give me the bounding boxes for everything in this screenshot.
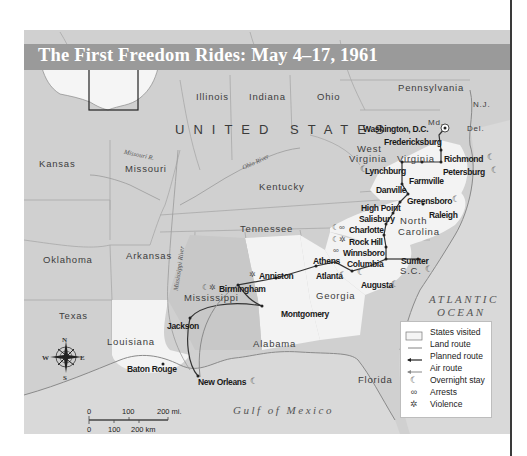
compass-west: W xyxy=(42,354,49,362)
state-label-alabama: Alabama xyxy=(253,338,296,349)
legend-item-arrests: ∞ Arrests xyxy=(401,387,491,399)
states-visited-swatch-icon xyxy=(405,327,423,339)
state-label-north: North xyxy=(400,215,427,226)
state-label-sc: S.C. xyxy=(400,265,422,276)
city-athens: Athens xyxy=(313,256,340,266)
city-salisbury: Salisbury xyxy=(359,214,395,224)
scale-km-100: 100 xyxy=(108,425,121,434)
moon-icon: ☾ xyxy=(332,235,339,244)
moon-icon: ☾ xyxy=(491,165,499,175)
city-richmond: Richmond xyxy=(444,154,483,164)
legend-item-violence: ✲ Violence xyxy=(401,399,491,411)
scale-mi-100: 100 xyxy=(122,407,135,416)
state-label-arkansas: Arkansas xyxy=(126,250,172,261)
moon-icon: ☾ xyxy=(487,152,495,162)
city-lynchburg: Lynchburg xyxy=(365,166,406,176)
city-new-orleans: New Orleans xyxy=(198,377,246,387)
scale-mi-200: 200 mi. xyxy=(157,407,182,416)
state-label-tennessee: Tennessee xyxy=(240,223,293,234)
scale-mi-0: 0 xyxy=(87,407,91,416)
freedom-rides-map: The First Freedom Rides: May 4–17, 1961 … xyxy=(24,30,510,434)
water-label-ocean: OCEAN xyxy=(437,306,486,318)
state-label-md: Md. xyxy=(428,118,444,127)
moon-icon: ☾ xyxy=(425,264,433,274)
city-washington-dc: Washington, D.C. xyxy=(363,124,428,134)
planned-route-arrow-icon xyxy=(405,351,423,363)
state-label-louisiana: Louisiana xyxy=(107,336,155,347)
city-farmville: Farmville xyxy=(409,176,444,186)
state-label-pennsylvania: Pennsylvania xyxy=(398,82,464,93)
city-rock-hill: Rock Hill xyxy=(349,237,383,247)
moon-icon: ☾ xyxy=(250,376,258,386)
moon-icon: ☾ xyxy=(357,267,365,277)
moon-icon: ☾ xyxy=(202,283,209,292)
state-label-carolina: Carolina xyxy=(398,226,440,237)
state-label-nj: N.J. xyxy=(473,100,490,109)
burst-icon: ✲ xyxy=(249,270,256,279)
city-fredericksburg: Fredericksburg xyxy=(384,137,442,147)
water-label-gulf: Gulf of Mexico xyxy=(233,404,334,416)
handcuffs-icon: ∞ xyxy=(333,246,339,255)
map-legend: States visited Land route Planned route … xyxy=(400,321,492,418)
state-label-ohio: Ohio xyxy=(317,91,340,102)
water-label-atlantic: ATLANTIC xyxy=(429,293,499,305)
city-montgomery: Montgomery xyxy=(281,309,329,319)
country-label: UNITED STATES xyxy=(175,122,393,137)
air-route-arrow-icon xyxy=(405,363,423,375)
state-label-texas: Texas xyxy=(59,310,88,321)
legend-item-overnight-stay: ☾ Overnight stay xyxy=(401,375,491,387)
moon-icon: ☾ xyxy=(332,223,339,232)
legend-item-states-visited: States visited xyxy=(401,327,491,339)
state-label-florida: Florida xyxy=(358,374,393,385)
state-label-indiana: Indiana xyxy=(249,91,286,102)
city-jackson: Jackson xyxy=(167,321,199,331)
city-birmingham: Birmingham xyxy=(219,284,266,294)
state-label-west-virginia: Virginia xyxy=(349,153,387,164)
city-charlotte: Charlotte xyxy=(349,225,384,235)
city-anniston: Anniston xyxy=(259,271,293,281)
city-raleigh: Raleigh xyxy=(429,210,458,220)
map-title: The First Freedom Rides: May 4–17, 1961 xyxy=(38,45,378,66)
title-bar: The First Freedom Rides: May 4–17, 1961 xyxy=(24,44,510,70)
city-danville: Danville xyxy=(376,185,406,195)
city-greensboro: Greensboro xyxy=(407,196,452,206)
city-high-point: High Point xyxy=(361,203,401,213)
burst-icon: ✲ xyxy=(405,399,423,411)
state-label-virginia: Virginia xyxy=(397,153,435,164)
city-augusta: Augusta xyxy=(361,280,393,290)
scale-km-0: 0 xyxy=(87,425,91,434)
moon-icon: ☾ xyxy=(339,270,347,280)
legend-item-land-route: Land route xyxy=(401,339,491,351)
legend-item-planned-route: Planned route xyxy=(401,351,491,363)
state-label-oklahoma: Oklahoma xyxy=(43,254,93,265)
legend-item-air-route: Air route xyxy=(401,363,491,375)
state-label-missouri: Missouri xyxy=(125,163,167,174)
handcuffs-icon: ∞ xyxy=(405,387,423,399)
state-label-georgia: Georgia xyxy=(316,290,355,301)
moon-icon: ☾ xyxy=(391,279,399,289)
city-baton-rouge: Baton Rouge xyxy=(127,364,177,374)
burst-icon: ✲ xyxy=(209,283,216,292)
page-edge-line xyxy=(510,0,512,456)
city-petersburg: Petersburg xyxy=(443,167,485,177)
moon-icon: ☾ xyxy=(360,164,368,174)
city-columbia: Columbia xyxy=(347,259,383,269)
state-label-del: Del. xyxy=(467,124,484,133)
compass-east: E xyxy=(80,354,85,362)
moon-icon: ☾ xyxy=(405,375,423,387)
compass-south: S xyxy=(63,374,67,382)
state-label-illinois: Illinois xyxy=(196,91,229,102)
handcuffs-icon: ∞ xyxy=(339,223,345,232)
city-winnsboro: Winnsboro xyxy=(343,248,385,258)
state-label-kentucky: Kentucky xyxy=(259,181,304,192)
state-label-kansas: Kansas xyxy=(39,158,76,169)
scale-km-200: 200 km xyxy=(131,425,156,434)
compass-north: N xyxy=(62,336,67,344)
burst-icon: ✲ xyxy=(339,235,346,244)
land-route-line-icon xyxy=(405,339,423,351)
moon-icon: ☾ xyxy=(452,194,460,204)
